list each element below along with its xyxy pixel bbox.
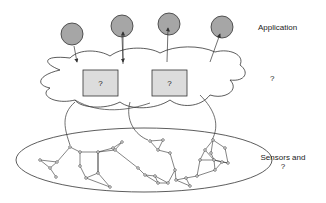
sensor-link bbox=[197, 160, 200, 176]
sensor-node bbox=[137, 167, 140, 170]
sensor-node bbox=[56, 161, 59, 164]
sensor-link bbox=[150, 141, 158, 150]
box-1-label: ? bbox=[83, 79, 118, 88]
sensor-link bbox=[168, 170, 175, 183]
sensor-link bbox=[213, 140, 225, 148]
sensor-node bbox=[227, 162, 230, 165]
sensor-node bbox=[199, 159, 202, 162]
application-nodes bbox=[61, 13, 233, 45]
sensor-node bbox=[55, 176, 58, 179]
sensor-node bbox=[121, 141, 124, 144]
sensor-node bbox=[109, 186, 112, 189]
sensor-node bbox=[224, 147, 227, 150]
sensor-link bbox=[115, 150, 138, 168]
sensors-label: Sensors and ? bbox=[253, 153, 313, 171]
sensor-node bbox=[196, 175, 199, 178]
sensor-link bbox=[186, 176, 197, 178]
sensor-network bbox=[39, 139, 230, 189]
sensor-node bbox=[97, 172, 100, 175]
sensor-node bbox=[157, 182, 160, 185]
app-node bbox=[211, 16, 233, 38]
sensor-node bbox=[167, 182, 170, 185]
sensor-node bbox=[169, 152, 172, 155]
sensor-link bbox=[200, 150, 205, 160]
sensor-node bbox=[221, 161, 224, 164]
sensor-link bbox=[150, 140, 163, 141]
sensor-link bbox=[197, 170, 215, 176]
sensor-link bbox=[170, 153, 175, 170]
sensor-node bbox=[85, 177, 88, 180]
sensor-node bbox=[114, 149, 117, 152]
sensor-link bbox=[80, 166, 86, 178]
sensor-node bbox=[213, 159, 216, 162]
app-node bbox=[61, 23, 83, 45]
sensor-node bbox=[175, 179, 178, 182]
application-label: Application bbox=[258, 23, 297, 32]
sensor-link bbox=[86, 173, 98, 178]
sensor-link bbox=[57, 147, 70, 162]
sensor-node bbox=[204, 149, 207, 152]
sensor-node bbox=[144, 174, 147, 177]
sensor-link bbox=[98, 150, 115, 152]
sensor-node bbox=[79, 151, 82, 154]
box-2-label: ? bbox=[152, 79, 187, 88]
sensor-node bbox=[97, 151, 100, 154]
sensor-link bbox=[70, 147, 80, 152]
sensor-node bbox=[157, 149, 160, 152]
sensor-link bbox=[176, 180, 190, 186]
sensor-link bbox=[158, 140, 163, 150]
sensor-node bbox=[69, 146, 72, 149]
middle-layer-label: ? bbox=[270, 74, 274, 83]
sensor-node bbox=[49, 167, 52, 170]
sensor-node bbox=[185, 177, 188, 180]
sensors-label-line1: Sensors and bbox=[253, 153, 313, 162]
sensor-link bbox=[50, 168, 56, 177]
app-node bbox=[158, 13, 180, 35]
app-node bbox=[111, 15, 133, 37]
sensor-node bbox=[210, 152, 213, 155]
sensor-link bbox=[205, 150, 214, 160]
sensor-node bbox=[154, 175, 157, 178]
sensor-node bbox=[162, 139, 165, 142]
sensor-link bbox=[158, 150, 170, 153]
middleware-cloud bbox=[41, 47, 246, 108]
sensor-node bbox=[214, 169, 217, 172]
sensor-node bbox=[189, 185, 192, 188]
sensor-field bbox=[16, 128, 272, 192]
sensor-link bbox=[225, 148, 228, 163]
sensor-node bbox=[79, 165, 82, 168]
sensor-node bbox=[39, 159, 42, 162]
sensor-node bbox=[149, 140, 152, 143]
sensor-node bbox=[174, 169, 177, 172]
sensors-label-line2: ? bbox=[253, 162, 313, 171]
sensor-node bbox=[212, 139, 215, 142]
